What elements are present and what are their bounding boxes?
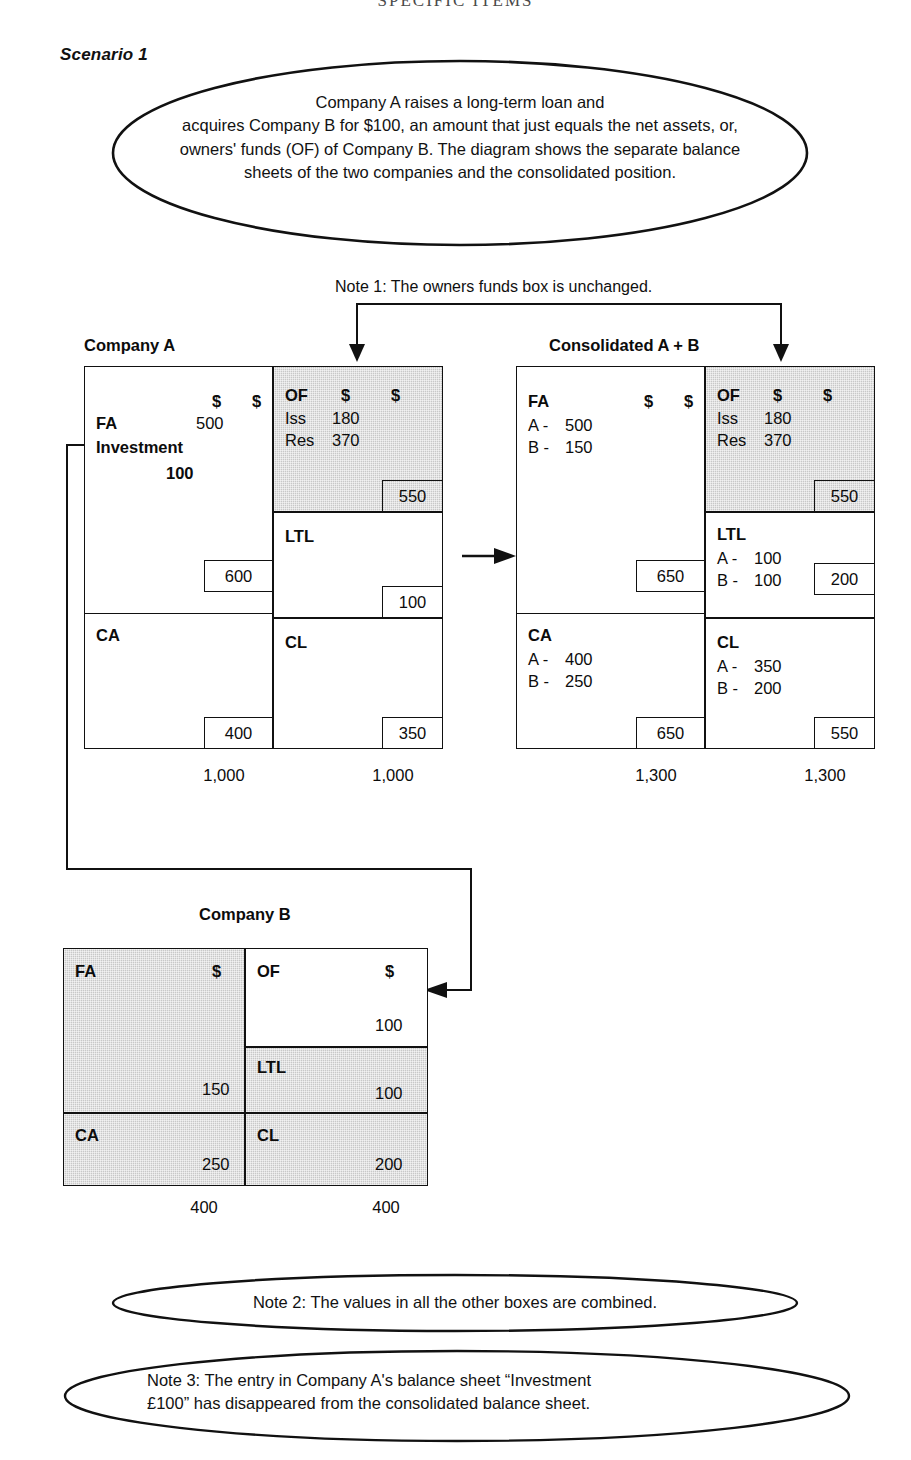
company-b-ltl-label: LTL — [257, 1058, 286, 1077]
consolidated-cl-row-0-key: A - — [717, 657, 737, 676]
company-b-ltl-box — [245, 1047, 428, 1113]
consolidated-of-row-0-key: Iss — [717, 409, 738, 428]
consolidated-ca-label: CA — [528, 626, 552, 645]
consolidated-fa-row-0-value: 500 — [565, 416, 593, 435]
consolidated-assets-divider — [516, 613, 705, 614]
consolidated-of-row-1-value: 370 — [764, 431, 792, 450]
consolidated-ltl-row-1-key: B - — [717, 571, 738, 590]
consolidated-assets-total: 1,300 — [606, 766, 706, 785]
running-head: SPECIFIC ITEMS — [0, 0, 911, 11]
company-a-ltl-subtotal: 100 — [382, 586, 443, 618]
company-a-fa-subtotal: 600 — [204, 560, 273, 592]
note-3-callout: Note 3: The entry in Company A's balance… — [62, 1348, 852, 1444]
company-b-ca-box — [63, 1113, 245, 1186]
company-b-ca-value: 250 — [202, 1155, 230, 1174]
consolidated-assets-dollar-1: $ — [644, 392, 653, 411]
company-a-of-row-1-value: 370 — [332, 431, 360, 450]
note-1-arrow-right — [773, 344, 789, 362]
consolidated-of-label: OF — [717, 386, 740, 405]
company-a-fa-value: 500 — [196, 414, 224, 433]
consolidated-liabilities-total: 1,300 — [775, 766, 875, 785]
consolidated-cl-label: CL — [717, 633, 739, 652]
company-a-investment-value: 100 — [166, 464, 194, 483]
company-b-title: Company B — [199, 905, 291, 924]
note-2-text: Note 2: The values in all the other boxe… — [110, 1291, 800, 1314]
company-a-title: Company A — [84, 336, 175, 355]
consolidated-cl-subtotal: 550 — [814, 717, 875, 749]
company-a-ltl-label: LTL — [285, 527, 314, 546]
consolidated-fa-row-1-key: B - — [528, 438, 549, 457]
consolidated-cl-row-1-key: B - — [717, 679, 738, 698]
company-a-ca-subtotal: 400 — [204, 717, 273, 749]
company-a-of-subtotal: 550 — [382, 480, 443, 512]
consolidated-ltl-subtotal: 200 — [814, 563, 875, 595]
diagram-page: SPECIFIC ITEMS Scenario 1 Company A rais… — [0, 0, 911, 1460]
consolidated-fa-label: FA — [528, 392, 549, 411]
consolidated-ca-subtotal: 650 — [636, 717, 705, 749]
company-a-assets-dollar-1: $ — [212, 392, 221, 411]
consolidated-of-dollar-2: $ — [823, 386, 832, 405]
company-b-assets-dollar: $ — [212, 962, 221, 981]
company-b-ca-label: CA — [75, 1126, 99, 1145]
company-a-of-dollar-2: $ — [391, 386, 400, 405]
company-a-of-label: OF — [285, 386, 308, 405]
note-2-line-1: Note 2: The values in all the other boxe… — [110, 1291, 800, 1314]
consolidated-of-row-0-value: 180 — [764, 409, 792, 428]
company-a-of-row-0-key: Iss — [285, 409, 306, 428]
consolidated-of-subtotal: 550 — [814, 480, 875, 512]
consolidated-assets-dollar-2: $ — [684, 392, 693, 411]
consolidated-cl-row-1-value: 200 — [754, 679, 782, 698]
company-b-cl-box — [245, 1113, 428, 1186]
company-a-liabilities-total: 1,000 — [343, 766, 443, 785]
company-b-of-label: OF — [257, 962, 280, 981]
note-1-arrow-left — [349, 344, 365, 362]
callout-line-2: acquires Company B for $100, an amount t… — [110, 114, 810, 137]
consolidated-fa-row-1-value: 150 — [565, 438, 593, 457]
company-b-fa-value: 150 — [202, 1080, 230, 1099]
company-b-assets-total: 400 — [154, 1198, 254, 1217]
consolidated-ltl-row-0-value: 100 — [754, 549, 782, 568]
company-b-ltl-value: 100 — [375, 1084, 403, 1103]
company-a-cl-subtotal: 350 — [382, 717, 443, 749]
company-a-of-row-1-key: Res — [285, 431, 314, 450]
consolidated-fa-row-0-key: A - — [528, 416, 548, 435]
callout-line-4: sheets of the two companies and the cons… — [110, 161, 810, 184]
company-a-cl-label: CL — [285, 633, 307, 652]
company-b-liabilities-dollar: $ — [385, 962, 394, 981]
note-2-callout: Note 2: The values in all the other boxe… — [110, 1272, 800, 1334]
consolidated-ltl-row-1-value: 100 — [754, 571, 782, 590]
scenario-callout: Company A raises a long-term loan and ac… — [110, 58, 810, 248]
scenario-callout-text: Company A raises a long-term loan and ac… — [110, 91, 810, 185]
note-3-line-2: £100” has disappeared from the consolida… — [147, 1392, 852, 1415]
company-a-fa-label: FA — [96, 414, 117, 433]
consolidated-ca-row-0-key: A - — [528, 650, 548, 669]
company-a-assets-divider — [84, 613, 273, 614]
company-a-investment-label: Investment — [96, 438, 183, 457]
consolidated-ltl-label: LTL — [717, 525, 746, 544]
company-b-of-value: 100 — [375, 1016, 403, 1035]
company-a-assets-total: 1,000 — [174, 766, 274, 785]
company-b-liabilities-total: 400 — [336, 1198, 436, 1217]
note-3-line-1: Note 3: The entry in Company A's balance… — [147, 1369, 852, 1392]
company-b-cl-value: 200 — [375, 1155, 403, 1174]
callout-line-1: Company A raises a long-term loan and — [110, 91, 810, 114]
company-b-fa-label: FA — [75, 962, 96, 981]
note-3-text: Note 3: The entry in Company A's balance… — [62, 1369, 852, 1416]
consolidated-ca-row-1-key: B - — [528, 672, 549, 691]
company-a-of-row-0-value: 180 — [332, 409, 360, 428]
consolidated-of-dollar-1: $ — [773, 386, 782, 405]
callout-line-3: owners' funds (OF) of Company B. The dia… — [110, 138, 810, 161]
consolidated-title: Consolidated A + B — [549, 336, 700, 355]
consolidated-fa-subtotal: 650 — [636, 560, 705, 592]
company-a-ca-label: CA — [96, 626, 120, 645]
note-1-text: Note 1: The owners funds box is unchange… — [335, 278, 652, 296]
consolidated-of-row-1-key: Res — [717, 431, 746, 450]
consolidated-cl-row-0-value: 350 — [754, 657, 782, 676]
consolidated-ca-row-0-value: 400 — [565, 650, 593, 669]
consolidated-ltl-row-0-key: A - — [717, 549, 737, 568]
company-a-assets-dollar-2: $ — [252, 392, 261, 411]
company-a-of-dollar-1: $ — [341, 386, 350, 405]
transform-arrow-head — [494, 548, 516, 564]
consolidated-ca-row-1-value: 250 — [565, 672, 593, 691]
company-b-cl-label: CL — [257, 1126, 279, 1145]
